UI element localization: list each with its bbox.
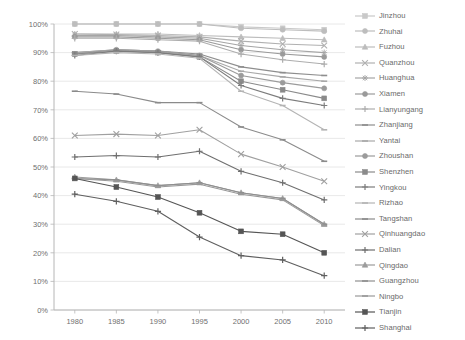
legend-swatch-icon [352,149,378,163]
y-tick-label: 20% [33,249,48,258]
data-point [280,95,286,101]
legend-swatch-icon [352,134,378,148]
data-point [322,54,327,59]
data-point [362,325,368,331]
legend-item-shanghai[interactable]: Shanghai [352,320,465,336]
legend-label: Qinhuangdao [378,226,425,242]
data-point [280,52,285,57]
legend-swatch-icon [352,227,378,241]
data-point [238,151,244,157]
data-point [280,87,285,92]
data-point [72,176,77,181]
legend-label: Zhoushan [378,148,413,164]
legend-item-dalian[interactable]: Dalian [352,242,465,258]
series-line [75,53,324,130]
data-point [155,208,161,214]
legend-label: Zhanjiang [378,117,413,133]
legend-item-fuzhou[interactable]: Fuzhou [352,39,465,55]
data-point [155,22,160,27]
legend-swatch-icon [352,180,378,194]
legend-swatch-icon [352,9,378,23]
data-point [363,91,368,96]
legend-label: Yantai [378,133,400,149]
legend-label: Shanghai [378,320,412,336]
legend-label: Tianjin [378,304,401,320]
legend-item-tianjin[interactable]: Tianjin [352,304,465,320]
data-point [72,22,77,27]
series-line [75,178,324,225]
legend-label: Shenzhen [378,164,414,180]
data-point [280,27,285,32]
data-point [321,178,327,184]
chart-legend: JinzhouZhuhaiFuzhouQuanzhouHuanghuaXiame… [352,8,465,336]
legend-swatch-icon [352,258,378,272]
data-point [280,232,285,237]
data-point [363,13,368,18]
legend-item-tangshan[interactable]: Tangshan [352,211,465,227]
legend-label: Zhuhai [378,24,403,40]
legend-item-quanzhou[interactable]: Quanzhou [352,55,465,71]
data-point [322,29,327,34]
legend-swatch-icon [352,289,378,303]
y-tick-label: 40% [33,191,48,200]
data-point [280,57,286,63]
legend-swatch-icon [352,102,378,116]
legend-item-rizhao[interactable]: Rizhao [352,195,465,211]
series-zhuhai [72,22,326,34]
y-tick-label: 0% [37,306,48,315]
x-tick-label: 1985 [108,317,125,326]
data-point [239,26,244,31]
data-point [321,197,327,203]
data-point [72,191,78,197]
legend-label: Lianyungang [378,102,423,118]
data-point [114,22,119,27]
legend-item-huanghua[interactable]: Huanghua [352,70,465,86]
x-tick-label: 2005 [274,317,291,326]
x-tick-label: 1980 [66,317,83,326]
data-point [280,257,286,263]
legend-label: Quanzhou [378,55,414,71]
legend-swatch-icon [352,40,378,54]
legend-swatch-icon [352,56,378,70]
series-yingkou [72,48,328,109]
legend-item-zhuhai[interactable]: Zhuhai [352,24,465,40]
legend-item-yantai[interactable]: Yantai [352,133,465,149]
legend-swatch-icon [352,305,378,319]
x-tick-label: 2000 [233,317,250,326]
legend-label: Huanghua [378,70,414,86]
legend-swatch-icon [352,165,378,179]
legend-item-xiamen[interactable]: Xiamen [352,86,465,102]
data-point [362,75,368,81]
legend-label: Yingkou [378,180,407,196]
data-point [197,210,202,215]
data-point [362,106,368,112]
data-point [114,185,119,190]
legend-item-yingkou[interactable]: Yingkou [352,180,465,196]
legend-item-shenzhen[interactable]: Shenzhen [352,164,465,180]
legend-item-zhoushan[interactable]: Zhoushan [352,148,465,164]
x-tick-label: 1995 [191,317,208,326]
legend-label: Dalian [378,242,401,258]
data-point [239,73,244,78]
legend-swatch-icon [352,274,378,288]
data-point [280,80,285,85]
legend-item-qinhuangdao[interactable]: Qinhuangdao [352,226,465,242]
data-series-layer [72,22,328,279]
legend-item-jinzhou[interactable]: Jinzhou [352,8,465,24]
legend-item-guangzhou[interactable]: Guangzhou [352,273,465,289]
data-point [363,310,368,315]
legend-swatch-icon [352,118,378,132]
legend-swatch-icon [352,87,378,101]
data-point [363,169,368,174]
legend-item-ningbo[interactable]: Ningbo [352,289,465,305]
data-point [72,154,78,160]
data-point [322,250,327,255]
legend-item-qingdao[interactable]: Qingdao [352,258,465,274]
y-tick-label: 30% [33,220,48,229]
series-line [75,178,324,252]
data-point [321,102,327,108]
legend-item-lianyungang[interactable]: Lianyungang [352,102,465,118]
legend-swatch-icon [352,196,378,210]
legend-item-zhanjiang[interactable]: Zhanjiang [352,117,465,133]
line-chart: 0%10%20%30%40%50%60%70%80%90%100% 198019… [0,0,465,340]
